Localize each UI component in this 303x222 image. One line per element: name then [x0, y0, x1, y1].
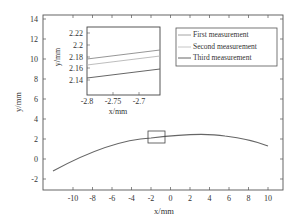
y-tick-label: 0 — [34, 155, 38, 164]
y-tick-label: 4 — [34, 115, 38, 124]
inset-y-tick-label: 2.14 — [69, 76, 83, 85]
x-tick-label: 8 — [247, 194, 251, 203]
inset-y-axis-label: y/mm — [53, 47, 62, 66]
y-tick-label: 14 — [30, 15, 38, 24]
inset-y-tick-label: 2.2 — [73, 41, 83, 50]
y-tick-label: 6 — [34, 95, 38, 104]
legend-label-second: Second measurement — [193, 42, 258, 51]
y-tick-label: 8 — [34, 75, 38, 84]
x-tick-label: -8 — [89, 194, 96, 203]
inset-y-tick-labels: 2.22 2.2 2.18 2.16 2.14 — [69, 29, 83, 85]
y-tick-label: 12 — [30, 35, 38, 44]
x-tick-label: 2 — [188, 194, 192, 203]
x-tick-label: -6 — [109, 194, 116, 203]
x-tick-label: -2 — [148, 194, 155, 203]
y-tick-label: 10 — [30, 55, 38, 64]
x-tick-label: 4 — [208, 194, 212, 203]
legend-label-first: First measurement — [193, 30, 250, 39]
main-y-axis-label: y/mm — [13, 92, 23, 112]
x-tick-label: -10 — [68, 194, 79, 203]
x-tick-label: 10 — [264, 194, 272, 203]
inset-y-tick-label: 2.22 — [69, 29, 83, 38]
x-tick-label: 0 — [169, 194, 173, 203]
main-x-axis-label: x/mm — [154, 206, 174, 216]
inset-x-tick-label: -2.7 — [133, 97, 146, 106]
x-tick-label: 6 — [227, 194, 231, 203]
chart-figure: -10 -8 -6 -4 -2 0 2 4 6 8 10 x/mm -2 0 2… — [0, 0, 303, 222]
main-curve — [53, 134, 268, 171]
x-tick-label: -4 — [128, 194, 135, 203]
inset-y-tick-label: 2.16 — [69, 64, 83, 73]
inset-x-axis-label: x/mm — [109, 107, 128, 116]
inset-x-tick-labels: -2.8 -2.75 -2.7 — [81, 97, 146, 106]
main-x-tick-labels: -10 -8 -6 -4 -2 0 2 4 6 8 10 — [68, 194, 272, 203]
main-y-tick-labels: -2 0 2 4 6 8 10 12 14 — [30, 15, 38, 184]
inset-x-tick-label: -2.75 — [105, 97, 122, 106]
legend-label-third: Third measurement — [193, 53, 252, 62]
inset-y-tick-label: 2.18 — [69, 53, 83, 62]
y-tick-label: 2 — [34, 135, 38, 144]
inset-plot-frame — [87, 27, 160, 95]
inset-x-tick-label: -2.8 — [81, 97, 94, 106]
y-tick-label: -2 — [31, 175, 38, 184]
